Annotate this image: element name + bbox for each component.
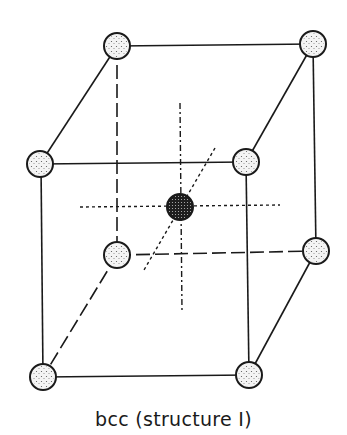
atom-top-back-left	[104, 33, 130, 59]
edge-bottom-right	[249, 251, 316, 375]
atom-top-front-left	[27, 151, 53, 177]
edge-back-right-vertical	[313, 44, 316, 251]
atom-bottom-back-left	[104, 242, 130, 268]
edge-top-left	[40, 46, 117, 164]
edge-front-right-vertical	[246, 162, 249, 375]
diagram-caption: bcc (structure I)	[0, 408, 347, 430]
edge-bottom-front	[43, 375, 249, 377]
atom-bottom-back-right	[303, 238, 329, 264]
edge-bottom-left-hidden	[43, 255, 117, 377]
atom-body-center	[167, 194, 193, 220]
edge-top-back	[117, 44, 313, 46]
atoms	[27, 31, 329, 390]
bcc-unit-cell-diagram	[0, 0, 347, 435]
edge-top-front	[40, 162, 246, 164]
edge-bottom-back-hidden	[117, 251, 316, 255]
atom-top-front-right	[233, 149, 259, 175]
atom-top-back-right	[300, 31, 326, 57]
edge-top-right	[246, 44, 313, 162]
atom-bottom-front-left	[30, 364, 56, 390]
atom-bottom-front-right	[236, 362, 262, 388]
edge-front-left-vertical	[41, 164, 43, 377]
